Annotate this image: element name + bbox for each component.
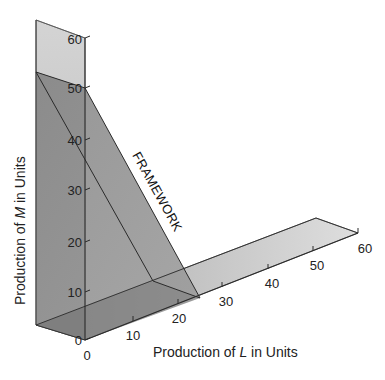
production-framework-diagram: 0 10 20 30 40 50 60 0 10 20 30 40 50 60 … xyxy=(0,0,385,380)
svg-text:20: 20 xyxy=(68,235,82,250)
svg-text:40: 40 xyxy=(68,133,82,148)
m-axis-title: Production of M in Units xyxy=(12,156,28,305)
svg-text:60: 60 xyxy=(68,32,82,47)
svg-text:10: 10 xyxy=(126,328,140,343)
svg-text:50: 50 xyxy=(68,81,82,96)
svg-text:50: 50 xyxy=(310,258,324,273)
svg-text:10: 10 xyxy=(68,285,82,300)
svg-text:30: 30 xyxy=(219,294,233,309)
svg-text:30: 30 xyxy=(68,183,82,198)
svg-text:20: 20 xyxy=(172,311,186,326)
svg-text:0: 0 xyxy=(83,348,90,363)
l-axis-title: Production of L in Units xyxy=(153,344,298,360)
svg-text:0: 0 xyxy=(75,333,82,348)
svg-text:60: 60 xyxy=(358,241,372,256)
svg-text:40: 40 xyxy=(265,276,279,291)
framework-plane xyxy=(36,72,200,325)
